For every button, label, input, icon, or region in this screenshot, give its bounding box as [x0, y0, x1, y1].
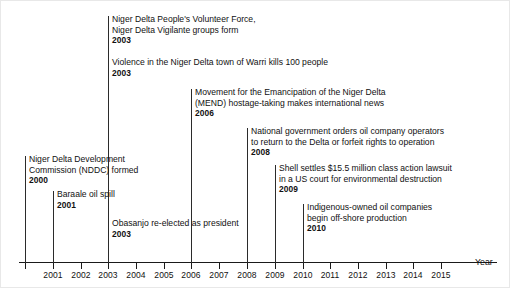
event-label-ndpvf-vigilante-2003: Niger Delta People's Volunteer Force, Ni…	[112, 14, 256, 46]
axis-tick-2002	[81, 262, 82, 269]
event-stem-obasanjo-reelected-2003	[108, 220, 109, 263]
axis-tick-2011	[330, 262, 331, 269]
event-label-mend-hostage-2006: Movement for the Emancipation of the Nig…	[195, 87, 386, 119]
event-line-1: Violence in the Niger Delta town of Warr…	[112, 57, 328, 68]
event-line-1: Movement for the Emancipation of the Nig…	[195, 87, 386, 98]
axis-tick-label-2010: 2010	[293, 270, 312, 280]
event-line-2: Niger Delta Vigilante groups form	[112, 25, 256, 36]
event-line-1: Indigenous-owned oil companies	[307, 202, 432, 213]
axis-tick-2004	[136, 262, 137, 269]
axis-tick-label-2006: 2006	[181, 270, 200, 280]
axis-tick-2006	[191, 262, 192, 269]
axis-tick-label-2009: 2009	[265, 270, 284, 280]
axis-tick-label-2012: 2012	[348, 270, 367, 280]
event-line-1: Niger Delta People's Volunteer Force,	[112, 14, 256, 25]
event-year: 2000	[29, 175, 138, 186]
axis-tick-2009	[275, 262, 276, 269]
axis-tick-2010	[303, 262, 304, 269]
event-label-government-orders-2008: National government orders oil company o…	[251, 126, 444, 158]
event-stem-government-orders-2008	[247, 128, 248, 263]
event-line-1: National government orders oil company o…	[251, 126, 444, 137]
axis-tick-label-2007: 2007	[209, 270, 228, 280]
axis-tick-2008	[247, 262, 248, 269]
event-label-baraale-oil-spill-2001: Baraale oil spill 2001	[57, 189, 115, 210]
axis-tick-2003	[108, 262, 109, 269]
event-label-nddc-formed-2000: Niger Delta Development Commission (NDDC…	[29, 154, 138, 186]
axis-tick-2012	[358, 262, 359, 269]
axis-tick-label-2013: 2013	[376, 270, 395, 280]
axis-tick-2014	[413, 262, 414, 269]
axis-tick-2001	[53, 262, 54, 269]
event-year: 2001	[57, 200, 115, 211]
axis-tick-2005	[164, 262, 165, 269]
event-line-2: (MEND) hostage-taking makes internationa…	[195, 98, 386, 109]
axis-tick-label-2011: 2011	[321, 270, 340, 280]
event-line-1: Obasanjo re-elected as president	[112, 218, 239, 229]
axis-tick-2013	[386, 262, 387, 269]
axis-tick-label-2003: 2003	[98, 270, 117, 280]
axis-tick-label-2005: 2005	[154, 270, 173, 280]
event-stem-baraale-oil-spill-2001	[53, 191, 54, 263]
event-line-1: Niger Delta Development	[29, 154, 138, 165]
event-line-1: Baraale oil spill	[57, 189, 115, 200]
axis-tick-2015	[441, 262, 442, 269]
event-year: 2003	[112, 68, 328, 79]
event-year: 2006	[195, 108, 386, 119]
event-year: 2009	[279, 184, 452, 195]
event-label-indigenous-offshore-2010: Indigenous-owned oil companies begin off…	[307, 202, 432, 234]
event-year: 2003	[112, 35, 256, 46]
event-line-2: Commission (NDDC) formed	[29, 165, 138, 176]
event-label-warri-violence-2003: Violence in the Niger Delta town of Warr…	[112, 57, 328, 78]
event-stem-shell-lawsuit-2009	[275, 165, 276, 263]
event-stem-indigenous-offshore-2010	[303, 204, 304, 263]
axis-tick-label-2014: 2014	[403, 270, 422, 280]
event-stem-nddc-formed-2000	[25, 156, 26, 263]
event-line-1: Shell settles $15.5 million class action…	[279, 163, 452, 174]
event-year: 2008	[251, 147, 444, 158]
axis-tick-2007	[219, 262, 220, 269]
axis-tick-label-2008: 2008	[237, 270, 256, 280]
event-line-2: begin off-shore production	[307, 213, 432, 224]
axis-tick-label-2004: 2004	[126, 270, 145, 280]
axis-tick-label-2001: 2001	[43, 270, 62, 280]
axis-caption-year: Year	[475, 257, 493, 267]
timeline-axis-line	[19, 262, 497, 263]
event-label-obasanjo-reelected-2003: Obasanjo re-elected as president 2003	[112, 218, 239, 239]
event-line-2: to return to the Delta or forfeit rights…	[251, 137, 444, 148]
event-year: 2010	[307, 223, 432, 234]
event-line-2: in a US court for environmental destruct…	[279, 174, 452, 185]
event-label-shell-lawsuit-2009: Shell settles $15.5 million class action…	[279, 163, 452, 195]
axis-tick-label-2002: 2002	[71, 270, 90, 280]
timeline-figure: 2001 2002 2003 2004 2005 2006 2007 2008 …	[0, 0, 510, 288]
axis-tick-label-2015: 2015	[431, 270, 450, 280]
axis-tick-2000	[25, 262, 26, 269]
event-year: 2003	[112, 229, 239, 240]
